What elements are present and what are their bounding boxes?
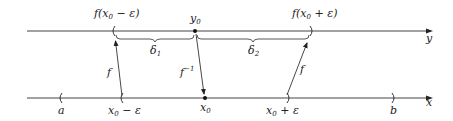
f-x0-plus-eps-label: f(x0 + ε) (291, 7, 337, 21)
delta2-label: δ2 (248, 44, 260, 58)
f-inverse-arrow (196, 34, 204, 94)
inverse-function-continuity-diagram: y x y0 f(x0 − ε) f(x0 + ε) δ1 δ2 f f−1 f (0, 0, 453, 121)
x0-point (203, 96, 207, 100)
f-label-left: f (106, 66, 113, 79)
x0-label: x0 (200, 101, 211, 115)
y0-label: y0 (189, 12, 201, 26)
a-label: a (58, 104, 65, 117)
x-axis: x (27, 96, 433, 110)
f-label-right: f (299, 63, 306, 76)
x0-minus-eps-label: x0 − ε (108, 104, 141, 118)
f-x0-minus-eps-label: f(x0 − ε) (93, 7, 139, 21)
delta2-brace (197, 35, 309, 42)
b-label: b (390, 104, 397, 117)
x0-plus-eps-label: x0 + ε (266, 104, 299, 118)
y-axis: y (27, 29, 433, 46)
f-arrow-left (116, 41, 123, 96)
f-inverse-label: f−1 (179, 65, 194, 79)
y0-point (193, 29, 197, 33)
x-axis-label: x (426, 96, 433, 109)
delta1-label: δ1 (150, 44, 161, 58)
y-axis-label: y (425, 32, 433, 45)
delta1-brace (116, 35, 194, 42)
